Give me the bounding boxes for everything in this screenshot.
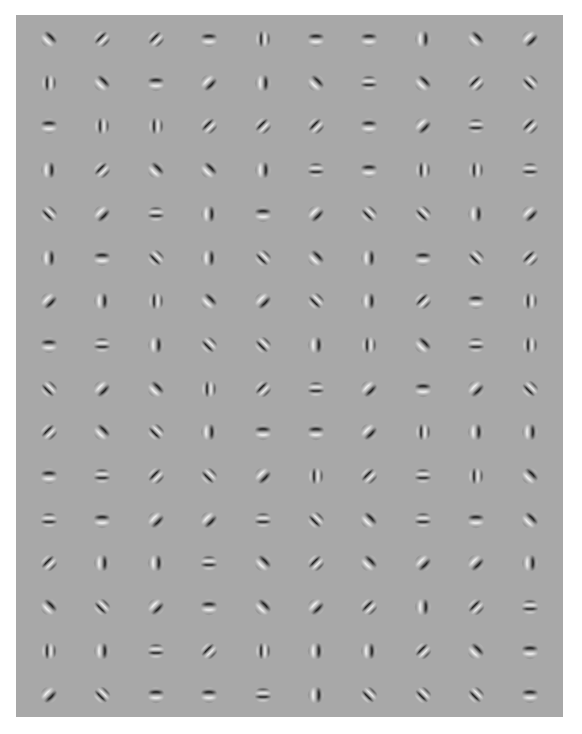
gabor-patch-icon: [192, 634, 226, 668]
gabor-patch-icon: [251, 639, 275, 663]
gabor-patch-icon: [518, 158, 542, 182]
gabor-patch-icon: [518, 333, 542, 357]
gabor-patch-icon: [464, 114, 488, 138]
gabor-patch-icon: [32, 22, 66, 56]
gabor-patch-icon: [251, 158, 275, 182]
gabor-patch-icon: [357, 246, 381, 270]
gabor-patch-icon: [299, 284, 333, 318]
gabor-patch-icon: [192, 284, 226, 318]
gabor-patch-icon: [139, 459, 173, 493]
gabor-patch-icon: [139, 590, 173, 624]
gabor-patch-icon: [139, 503, 173, 537]
gabor-patch-icon: [304, 420, 328, 444]
gabor-patch-icon: [352, 678, 386, 712]
gabor-patch-icon: [192, 503, 226, 537]
gabor-patch-icon: [90, 508, 114, 532]
gabor-patch-icon: [352, 197, 386, 231]
gabor-patch-icon: [411, 595, 435, 619]
gabor-patch-icon: [192, 459, 226, 493]
gabor-patch-icon: [406, 546, 440, 580]
gabor-patch-icon: [357, 333, 381, 357]
gabor-patch-icon: [357, 158, 381, 182]
gabor-patch-icon: [411, 420, 435, 444]
gabor-patch-icon: [197, 27, 221, 51]
gabor-patch-icon: [251, 420, 275, 444]
gabor-patch-icon: [352, 546, 386, 580]
gabor-patch-icon: [32, 197, 66, 231]
gabor-patch-icon: [513, 109, 547, 143]
gabor-patch-icon: [459, 66, 493, 100]
gabor-patch-icon: [144, 639, 168, 663]
gabor-patch-icon: [411, 158, 435, 182]
gabor-patch-icon: [85, 22, 119, 56]
gabor-patch-icon: [246, 241, 280, 275]
gabor-patch-icon: [406, 197, 440, 231]
gabor-patch-icon: [192, 109, 226, 143]
gabor-patch-icon: [246, 328, 280, 362]
gabor-patch-icon: [304, 464, 328, 488]
gabor-patch-icon: [90, 289, 114, 313]
gabor-patch-icon: [304, 27, 328, 51]
gabor-patch-icon: [518, 551, 542, 575]
gabor-patch-icon: [32, 372, 66, 406]
gabor-patch-icon: [85, 372, 119, 406]
gabor-patch-icon: [197, 377, 221, 401]
gabor-patch-icon: [37, 158, 61, 182]
gabor-patch-icon: [459, 372, 493, 406]
gabor-patch-icon: [299, 503, 333, 537]
gabor-patch-icon: [246, 590, 280, 624]
gabor-patch-icon: [90, 246, 114, 270]
gabor-patch-icon: [192, 66, 226, 100]
gabor-patch-icon: [304, 639, 328, 663]
gabor-patch-icon: [459, 634, 493, 668]
gabor-patch-icon: [37, 114, 61, 138]
gabor-patch-icon: [90, 639, 114, 663]
gabor-patch-icon: [251, 508, 275, 532]
gabor-patch-icon: [37, 464, 61, 488]
gabor-patch-icon: [304, 158, 328, 182]
gabor-patch-icon: [352, 503, 386, 537]
gabor-patch-icon: [139, 153, 173, 187]
gabor-patch-icon: [246, 372, 280, 406]
gabor-patch-icon: [459, 22, 493, 56]
gabor-patch-icon: [406, 678, 440, 712]
gabor-patch-icon: [518, 420, 542, 444]
gabor-patch-icon: [513, 372, 547, 406]
gabor-patch-icon: [85, 590, 119, 624]
gabor-patch-icon: [251, 683, 275, 707]
gabor-patch-icon: [32, 678, 66, 712]
gabor-patch-icon: [246, 546, 280, 580]
gabor-patch-icon: [85, 415, 119, 449]
gabor-patch-icon: [144, 114, 168, 138]
gabor-patch-icon: [357, 289, 381, 313]
gabor-patch-icon: [464, 158, 488, 182]
gabor-patch-icon: [139, 22, 173, 56]
gabor-patch-icon: [513, 241, 547, 275]
gabor-patch-icon: [464, 420, 488, 444]
gabor-patch-icon: [246, 459, 280, 493]
gabor-patch-icon: [513, 22, 547, 56]
gabor-patch-icon: [251, 71, 275, 95]
gabor-patch-icon: [352, 590, 386, 624]
gabor-patch-icon: [304, 377, 328, 401]
gabor-patch-icon: [406, 66, 440, 100]
gabor-patch-icon: [32, 590, 66, 624]
gabor-patch-icon: [246, 109, 280, 143]
gabor-patch-icon: [32, 284, 66, 318]
gabor-patch-icon: [518, 595, 542, 619]
gabor-patch-icon: [246, 284, 280, 318]
gabor-patch-icon: [459, 546, 493, 580]
gabor-patch-icon: [513, 503, 547, 537]
gabor-patch-icon: [406, 284, 440, 318]
gabor-patch-icon: [513, 197, 547, 231]
gabor-patch-icon: [90, 114, 114, 138]
gabor-patch-icon: [464, 464, 488, 488]
gabor-patch-icon: [90, 464, 114, 488]
gabor-patch-icon: [85, 66, 119, 100]
gabor-patch-icon: [197, 246, 221, 270]
gabor-patch-icon: [299, 546, 333, 580]
gabor-patch-icon: [197, 595, 221, 619]
gabor-patch-icon: [299, 197, 333, 231]
gabor-patch-icon: [518, 683, 542, 707]
gabor-patch-icon: [357, 71, 381, 95]
